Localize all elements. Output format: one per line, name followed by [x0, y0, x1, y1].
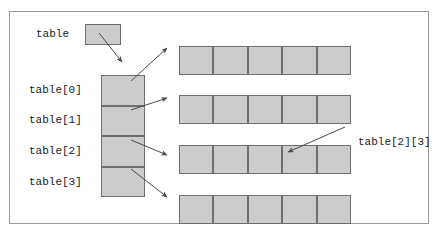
row-0-cell-4	[317, 46, 351, 75]
row-1-cell-4	[317, 95, 351, 124]
row-array-0	[179, 46, 351, 75]
row-0-cell-0	[179, 46, 213, 75]
column-label-table-2: table[2]	[29, 145, 82, 157]
row-3-cell-1	[213, 195, 247, 224]
row-2-cell-1	[213, 145, 247, 174]
column-label-table-3: table[3]	[29, 176, 82, 188]
row-1-cell-1	[213, 95, 247, 124]
row-2-cell-3	[282, 145, 316, 174]
row-3-cell-2	[248, 195, 282, 224]
column-cell-2	[101, 136, 145, 167]
figure-frame: table table[0] table[1] table[2] table[3…	[9, 11, 429, 224]
column-cell-1	[101, 106, 145, 137]
row-array-2	[179, 145, 351, 174]
row-2-cell-4	[317, 145, 351, 174]
element-annotation-label: table[2][3]	[358, 136, 431, 148]
row-array-1	[179, 95, 351, 124]
table-variable-label: table	[36, 28, 69, 40]
column-pointer-array	[101, 75, 145, 197]
row-0-cell-3	[282, 46, 316, 75]
column-cell-3	[101, 167, 145, 198]
row-3-cell-3	[282, 195, 316, 224]
row-2-cell-0	[179, 145, 213, 174]
row-1-cell-0	[179, 95, 213, 124]
table-pointer-box	[85, 24, 121, 45]
row-1-cell-3	[282, 95, 316, 124]
row-array-3	[179, 195, 351, 224]
row-0-cell-1	[213, 46, 247, 75]
row-3-cell-0	[179, 195, 213, 224]
row-1-cell-2	[248, 95, 282, 124]
diagram-canvas: table table[0] table[1] table[2] table[3…	[0, 0, 439, 236]
column-label-table-0: table[0]	[29, 84, 82, 96]
column-label-table-1: table[1]	[29, 114, 82, 126]
column-cell-0	[101, 75, 145, 106]
row-2-cell-2	[248, 145, 282, 174]
row-0-cell-2	[248, 46, 282, 75]
row-3-cell-4	[317, 195, 351, 224]
